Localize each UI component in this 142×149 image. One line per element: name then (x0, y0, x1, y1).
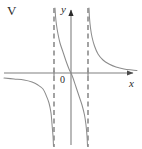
y-axis-label: y (61, 4, 66, 15)
axes-group (4, 10, 133, 145)
curve-left-branch (4, 78, 54, 146)
x-axis-label: x (129, 78, 134, 89)
option-label: V (7, 4, 16, 17)
origin-label: 0 (60, 75, 65, 85)
plot-canvas (0, 0, 142, 149)
curve-right-branch (89, 8, 137, 71)
function-graph-figure: V y x 0 (0, 0, 142, 149)
